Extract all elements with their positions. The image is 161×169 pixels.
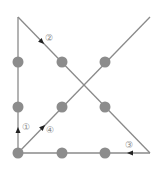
dot [100, 102, 111, 113]
dot [13, 102, 24, 113]
step-label-3: ③ [125, 140, 133, 150]
dot [100, 148, 111, 159]
arrow-up-icon [16, 127, 21, 133]
dot [57, 102, 68, 113]
dot [57, 148, 68, 159]
arrow-left-icon [127, 151, 133, 156]
step-label-1: ① [22, 122, 30, 132]
dot [13, 57, 24, 68]
dot [13, 148, 24, 159]
step-label-2: ② [45, 33, 53, 43]
dot [100, 57, 111, 68]
nine-dot-diagram: ①②③④ [0, 0, 161, 169]
step-label-4: ④ [46, 125, 54, 135]
dot [57, 57, 68, 68]
path-lines [18, 17, 150, 153]
